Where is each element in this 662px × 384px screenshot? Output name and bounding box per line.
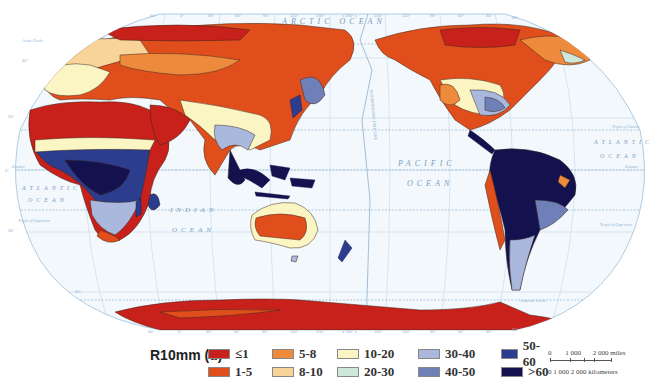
scale-tick	[611, 358, 612, 362]
lon-tick: 90°	[262, 329, 268, 334]
legend-item: ≤1	[208, 348, 249, 360]
lon-tick: 0°	[180, 13, 184, 18]
lon-tick: ± 180° ±	[342, 13, 358, 18]
lon-tick: 150°	[374, 329, 383, 334]
legend-swatch	[501, 349, 518, 359]
tropic-capricorn-label-right: Tropic of Capricorn	[600, 222, 632, 227]
lon-tick: 0°	[178, 329, 182, 334]
lon-tick: 60°	[458, 13, 464, 18]
lon-tick: 90°	[263, 13, 269, 18]
scale-bar: 0 1 000 2 000 miles 0 1 000 2 000 kilome…	[548, 349, 662, 384]
scale-line	[550, 360, 612, 361]
scale-tick	[594, 358, 595, 362]
legend-item: 8-10	[272, 366, 323, 378]
legend-swatch	[418, 367, 440, 377]
arctic-ocean-label: ARCTIC OCEAN	[281, 17, 386, 26]
legend-label: 30-40	[445, 346, 475, 362]
scale-mile-0: 0	[548, 349, 552, 357]
pacific-ocean-label-1: PACIFIC	[397, 159, 456, 168]
arctic-circle-label: Arctic Circle	[21, 38, 43, 43]
legend-label: 1-5	[235, 364, 252, 380]
lon-tick: 60°	[148, 329, 154, 334]
lon-tick: 120°	[290, 329, 299, 334]
lon-tick: 150°	[374, 13, 383, 18]
atlantic-east-label-2: OCEAN	[600, 153, 640, 159]
lon-tick: 150°	[316, 329, 325, 334]
scale-km: 0 1 000 2 000 kilometers	[548, 368, 618, 376]
lat-tick: 60°	[22, 58, 28, 63]
legend-swatch	[272, 367, 294, 377]
lon-tick: 60°	[512, 15, 518, 20]
legend-label: 8-10	[299, 364, 323, 380]
legend-item: 10-20	[337, 348, 394, 360]
tropic-capricorn-label-left: Tropic of Capricorn	[18, 218, 50, 223]
legend-item: 50-60	[501, 348, 545, 360]
scale-mile-2000: 2 000 miles	[593, 349, 626, 357]
lat-tick: 60°	[75, 289, 81, 294]
legend-swatch	[208, 349, 230, 359]
scale-tick	[550, 358, 551, 362]
legend-item: 20-30	[337, 366, 394, 378]
lat-tick: 0°	[5, 168, 9, 173]
legend-item: >60	[501, 366, 548, 378]
lon-tick: 60°	[458, 329, 464, 334]
legend-item: 30-40	[418, 348, 475, 360]
legend-item: 1-5	[208, 366, 252, 378]
legend-label: >60	[528, 364, 548, 380]
indian-ocean-label-1: INDIAN	[169, 206, 217, 214]
lat-tick: 30°	[8, 114, 14, 119]
equator-label-right: Equator	[624, 164, 639, 169]
legend-label: ≤1	[235, 346, 249, 362]
legend-swatch	[272, 349, 294, 359]
lon-tick: 60°	[234, 329, 240, 334]
lon-tick: 60°	[235, 13, 241, 18]
lon-tick: 30°	[486, 329, 492, 334]
lat-tick: 30°	[8, 228, 14, 233]
legend-swatch	[418, 349, 440, 359]
indian-ocean-label-2: OCEAN	[172, 226, 215, 234]
lon-tick: 120°	[290, 13, 299, 18]
scale-mile-1000: 1 000	[565, 349, 581, 357]
atlantic-west-label-1: ATLANTIC	[21, 185, 81, 191]
lon-tick: 90°	[430, 13, 436, 18]
world-map: ARCTIC OCEAN PACIFIC OCEAN ATLANTIC OCEA…	[0, 0, 662, 340]
lon-tick: 120°	[402, 329, 411, 334]
equator-label-left: Equator	[11, 164, 26, 169]
legend-swatch	[208, 367, 230, 377]
legend: R10mm (d) ≤11-55-88-1010-2020-3030-4040-…	[150, 340, 530, 384]
pacific-ocean-label-2: OCEAN	[407, 179, 453, 188]
scale-miles: 0 1 000 2 000 miles	[548, 349, 625, 357]
atlantic-west-label-2: OCEAN	[28, 197, 68, 203]
lon-tick: 90°	[430, 329, 436, 334]
lon-tick: 30°	[208, 13, 214, 18]
legend-item: 40-50	[418, 366, 475, 378]
lon-tick: ± 180° ±	[342, 329, 358, 334]
legend-label: 10-20	[364, 346, 394, 362]
legend-label: 40-50	[445, 364, 475, 380]
legend-swatch	[337, 367, 359, 377]
lon-tick: 30°	[486, 13, 492, 18]
legend-label: 20-30	[364, 364, 394, 380]
lon-tick: 60°	[512, 327, 518, 332]
antarctic-circle-label: Antarctic Circle	[519, 298, 546, 303]
atlantic-east-label-1: ATLANTIC	[593, 139, 653, 145]
tropic-cancer-label: Tropic of Cancer	[612, 124, 640, 129]
lon-tick: 120°	[402, 13, 411, 18]
legend-label: 5-8	[299, 346, 316, 362]
lon-tick: 30°	[206, 329, 212, 334]
lon-tick: 60°	[150, 13, 156, 18]
legend-swatch	[501, 367, 523, 377]
scale-tick	[570, 358, 571, 362]
legend-swatch	[337, 349, 359, 359]
legend-item: 5-8	[272, 348, 316, 360]
scale-tick	[584, 358, 585, 362]
lon-tick: 150°	[316, 13, 325, 18]
